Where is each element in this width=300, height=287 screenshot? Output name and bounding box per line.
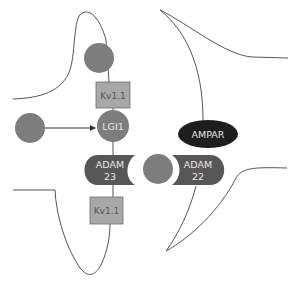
kv11-top-label: Kv1.1: [100, 91, 126, 101]
kv11-bottom-label: Kv1.1: [94, 206, 120, 216]
synapse-diagram: Kv1.1 LGI1 ADAM 23 AMPAR ADAM 22 Kv1.1: [0, 0, 300, 287]
kv11-top-channel: Kv1.1: [96, 82, 130, 108]
ampar-label: AMPAR: [192, 129, 225, 140]
lgi1-label: LGI1: [102, 121, 124, 132]
adam23-label-line1: ADAM: [96, 159, 124, 170]
lgi1-node: LGI1: [97, 110, 129, 142]
middle-circle: [143, 154, 173, 184]
postsynaptic-membrane-upper: [160, 10, 288, 120]
adam22-label-line2: 22: [192, 171, 204, 182]
kv11-bottom-channel: Kv1.1: [90, 197, 123, 224]
left-circle: [15, 113, 45, 143]
adam22-label-line1: ADAM: [184, 159, 212, 170]
adam22-node: ADAM 22: [172, 155, 224, 185]
top-circle: [84, 43, 114, 73]
ampar-node: AMPAR: [178, 120, 238, 148]
adam23-label-line2: 23: [104, 171, 116, 182]
adam23-node: ADAM 23: [85, 155, 136, 185]
